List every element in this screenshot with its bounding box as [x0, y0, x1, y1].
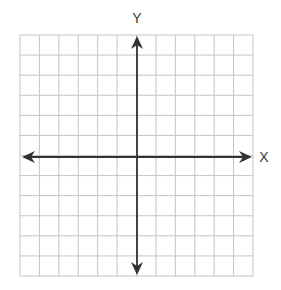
coordinate-plane — [0, 0, 281, 290]
y-axis-label: Y — [132, 11, 141, 25]
x-axis-label: X — [259, 150, 268, 164]
